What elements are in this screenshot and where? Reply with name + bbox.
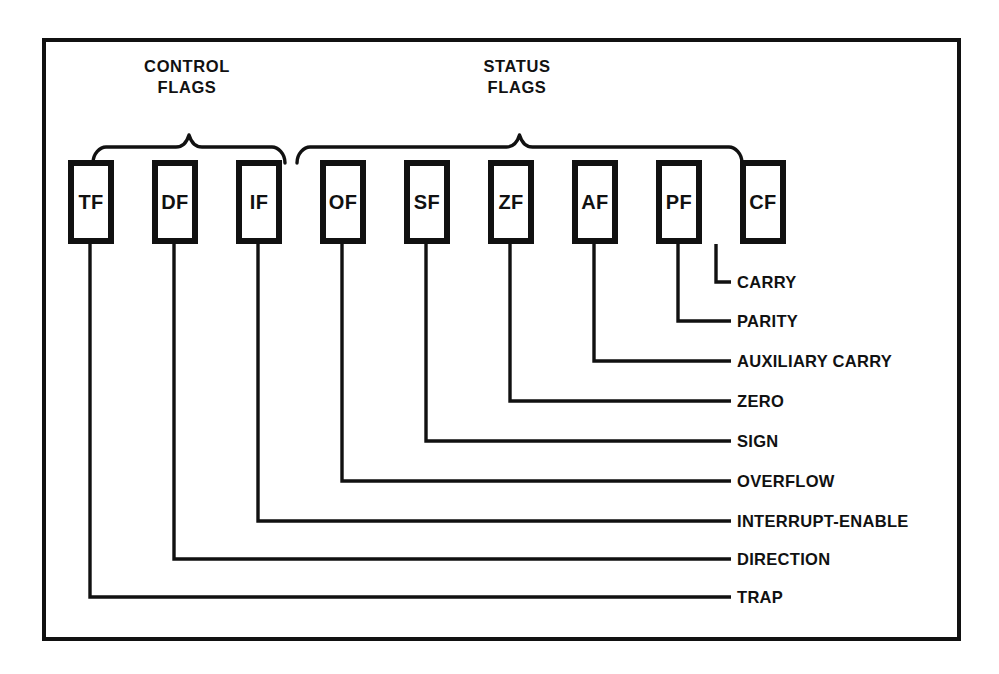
flag-abbr-label: TF [78,191,103,213]
flag-name-df: DIRECTION [737,550,830,568]
group-braces [93,135,742,163]
leader-line-tf [90,244,731,597]
flag-name-sf: SIGN [737,432,779,450]
brace-control [93,135,285,163]
flag-box-pf[interactable]: PF [659,163,699,241]
flag-abbr-label: IF [250,191,269,213]
control-flags-title-line1: CONTROL [144,57,230,75]
group-heading-control: CONTROL FLAGS [144,57,230,96]
flag-name-if: INTERRUPT-ENABLE [737,512,909,530]
leader-line-sf [426,244,731,441]
flag-abbr-label: OF [329,191,358,213]
status-flags-title-line2: FLAGS [488,78,547,96]
flag-name-af: AUXILIARY CARRY [737,352,892,370]
diagram-canvas: CONTROL FLAGS STATUS FLAGS TFDFIFOFSFZFA… [0,0,999,674]
flag-box-tf[interactable]: TF [71,163,111,241]
flag-box-af[interactable]: AF [575,163,615,241]
status-flags-title-line1: STATUS [483,57,550,75]
flag-name-tf: TRAP [737,588,783,606]
leader-line-af [594,244,731,361]
flag-abbr-label: CF [749,191,776,213]
flag-box-df[interactable]: DF [155,163,195,241]
leader-line-cf [716,244,731,282]
flag-box-sf[interactable]: SF [407,163,447,241]
group-heading-status: STATUS FLAGS [483,57,550,96]
leader-lines [90,244,731,597]
flags-diagram: CONTROL FLAGS STATUS FLAGS TFDFIFOFSFZFA… [0,0,999,674]
flag-name-of: OVERFLOW [737,472,835,490]
flag-name-pf: PARITY [737,312,798,330]
flag-name-cf: CARRY [737,273,797,291]
flag-abbr-label: ZF [498,191,523,213]
flag-name-labels: TRAPDIRECTIONINTERRUPT-ENABLEOVERFLOWSIG… [737,273,909,606]
flag-box-if[interactable]: IF [239,163,279,241]
brace-status [297,135,742,163]
flag-box-cf[interactable]: CF [743,163,783,241]
flag-boxes: TFDFIFOFSFZFAFPFCF [71,163,783,241]
flag-abbr-label: SF [414,191,440,213]
flag-name-zf: ZERO [737,392,784,410]
flag-abbr-label: DF [161,191,188,213]
flag-abbr-label: AF [581,191,608,213]
flag-box-of[interactable]: OF [323,163,363,241]
flag-box-zf[interactable]: ZF [491,163,531,241]
flag-abbr-label: PF [666,191,692,213]
control-flags-title-line2: FLAGS [158,78,217,96]
